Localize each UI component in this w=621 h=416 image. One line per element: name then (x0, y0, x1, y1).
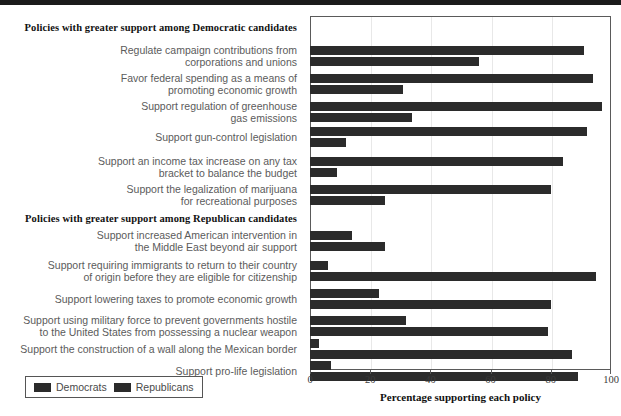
bar-democrats (310, 46, 584, 55)
legend-label-republicans: Republicans (136, 381, 194, 393)
bar-democrats (310, 102, 602, 111)
x-tick-label: 60 (485, 374, 496, 385)
bar-republicans (310, 168, 337, 177)
category-label: Support requiring immigrants to return t… (48, 259, 297, 284)
bar-republicans (310, 57, 479, 66)
legend-entry-republicans: Republicans (114, 381, 194, 393)
bar-republicans (310, 350, 572, 359)
x-axis: 020406080100 (310, 370, 611, 388)
bar-democrats (310, 316, 406, 325)
x-tick-label: 100 (603, 374, 619, 385)
category-label: Support an income tax increase on any ta… (98, 155, 297, 180)
bar-democrats (310, 361, 331, 370)
bar-democrats (310, 74, 593, 83)
category-label: Support the construction of a wall along… (20, 343, 297, 356)
bar-democrats (310, 157, 563, 166)
x-tick-label: 80 (546, 374, 557, 385)
legend-entry-democrats: Democrats (34, 381, 107, 393)
x-tick-label: 0 (307, 374, 312, 385)
legend-label-democrats: Democrats (56, 381, 107, 393)
bar-democrats (310, 261, 328, 270)
chart-figure: Policies with greater support among Demo… (0, 5, 621, 416)
chart-legend: Democrats Republicans (25, 376, 203, 398)
bars-layer (310, 16, 611, 370)
bar-republicans (310, 300, 551, 309)
bar-republicans (310, 272, 596, 281)
bar-republicans (310, 85, 403, 94)
bar-republicans (310, 327, 548, 336)
x-tick-label: 20 (365, 374, 376, 385)
legend-swatch-democrats (34, 383, 51, 392)
category-label: Support using military force to prevent … (23, 314, 297, 339)
bar-democrats (310, 127, 587, 136)
category-label: Regulate campaign contributions from cor… (120, 44, 297, 69)
legend-swatch-republicans (114, 383, 131, 392)
category-label: Support the legalization of marijuana fo… (127, 183, 297, 208)
category-label: Support regulation of greenhouse gas emi… (141, 100, 297, 125)
bar-republicans (310, 196, 385, 205)
category-label: Support gun-control legislation (155, 131, 297, 144)
bar-republicans (310, 138, 346, 147)
category-label: Support lowering taxes to promote econom… (55, 293, 297, 306)
x-tick-label: 40 (425, 374, 436, 385)
bar-democrats (310, 339, 319, 348)
category-labels-column: Policies with greater support among Demo… (0, 16, 303, 370)
bar-republicans (310, 113, 412, 122)
bar-democrats (310, 289, 379, 298)
bar-democrats (310, 185, 551, 194)
category-label: Favor federal spending as a means of pro… (121, 72, 297, 97)
section-heading-republican: Policies with greater support among Repu… (25, 213, 297, 224)
x-axis-title: Percentage supporting each policy (310, 391, 611, 403)
bar-democrats (310, 231, 352, 240)
bar-republicans (310, 242, 385, 251)
section-heading-democratic: Policies with greater support among Demo… (25, 22, 297, 33)
category-label: Support increased American intervention … (97, 229, 297, 254)
